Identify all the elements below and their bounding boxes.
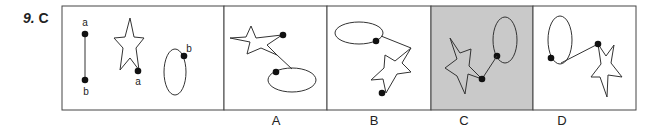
option-b-dot-2 (379, 90, 386, 97)
puzzle-figure: a b a b (0, 0, 660, 131)
option-a-label: A (266, 113, 286, 128)
label-a-top: a (82, 17, 88, 28)
given-line-dot-a (82, 31, 89, 38)
label-b-bottom: b (83, 86, 89, 97)
option-d-dot-2 (595, 41, 602, 48)
option-a-dot-2 (273, 69, 280, 76)
label-a-star: a (135, 76, 141, 87)
option-b-panel[interactable] (327, 6, 431, 110)
option-b-dot-1 (373, 38, 380, 45)
option-b-label: B (364, 113, 384, 128)
given-line-dot-b (82, 77, 89, 84)
option-a-dot-1 (280, 32, 287, 39)
given-star-dot-a (135, 68, 142, 75)
option-c-panel[interactable] (431, 6, 533, 110)
option-c-label: C (454, 113, 474, 128)
option-d-dot-1 (548, 55, 555, 62)
label-b-ellipse: b (186, 43, 192, 54)
option-d-label: D (552, 113, 572, 128)
option-a-panel[interactable] (224, 6, 327, 110)
option-c-dot-2 (479, 76, 486, 83)
